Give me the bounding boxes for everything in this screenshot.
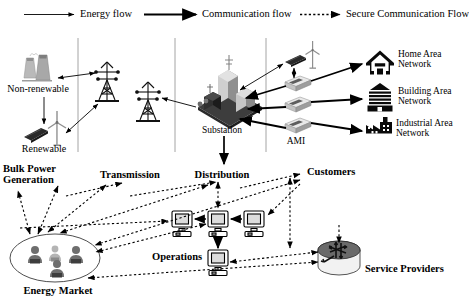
label-operations: Operations bbox=[152, 251, 202, 262]
arrow-substation-der bbox=[240, 64, 283, 90]
arrow-renewable-tower1 bbox=[66, 104, 98, 133]
label-home-area-network-line2: Network bbox=[398, 60, 442, 70]
transmission-tower-1-icon bbox=[95, 62, 120, 101]
label-distribution: Distribution bbox=[195, 169, 250, 180]
house-icon bbox=[366, 51, 394, 75]
non-renewable-icon bbox=[22, 54, 52, 82]
label-substation: Substation bbox=[202, 126, 242, 136]
computer-icon-3 bbox=[244, 211, 264, 237]
legend-label-energy-flow: Energy flow bbox=[80, 8, 132, 19]
arrow-ami3-substation bbox=[240, 119, 286, 128]
arrow-energy-market-bulk-power bbox=[18, 191, 30, 234]
label-industrial-area-network-line2: Network bbox=[396, 129, 453, 139]
arrow-transmission-distribution bbox=[130, 182, 216, 196]
factory-icon bbox=[366, 117, 392, 134]
arrow-computer2-energy-market bbox=[96, 224, 206, 252]
renewable-icon bbox=[24, 111, 66, 146]
ami-meter-2-icon bbox=[285, 97, 311, 112]
label-service-providers: Service Providers bbox=[365, 263, 444, 274]
label-non-renewable: Non-renewable bbox=[7, 84, 69, 95]
label-bulk-power-generation: Bulk Power Generation bbox=[3, 163, 56, 185]
der-solar-wind-icon bbox=[285, 41, 320, 69]
arrow-energy-market-service-providers bbox=[88, 262, 318, 278]
label-transmission: Transmission bbox=[100, 169, 160, 180]
label-building-area-network: Building Area Network bbox=[398, 87, 452, 107]
arrow-ami1-home-area-network bbox=[311, 64, 362, 81]
arrow-ami2-building-area-network bbox=[311, 99, 362, 102]
router-icon bbox=[318, 241, 360, 275]
label-industrial-area-network: Industrial Area Network bbox=[396, 119, 453, 139]
wind-turbine-icon bbox=[48, 111, 66, 146]
arrow-operations-service-providers bbox=[230, 252, 318, 262]
legend-label-secure-communication-flow: Secure Communication Flow bbox=[346, 8, 469, 19]
computer-icon-2 bbox=[208, 211, 228, 237]
operations-computer-icon bbox=[208, 250, 228, 276]
ami-meter-3-icon bbox=[285, 118, 311, 133]
label-renewable: Renewable bbox=[22, 144, 66, 155]
der-wind-turbine-icon bbox=[306, 41, 320, 69]
label-home-area-network: Home Area Network bbox=[398, 50, 442, 70]
label-energy-market: Energy Market bbox=[23, 285, 92, 296]
label-bulk-power-generation-line2: Generation bbox=[3, 174, 56, 185]
transmission-tower-2-icon bbox=[136, 82, 161, 121]
label-ami: AMI bbox=[287, 137, 305, 147]
arrow-nonrenewable-tower1 bbox=[58, 73, 95, 78]
arrow-customers-energy-market bbox=[95, 180, 300, 245]
label-building-area-network-line2: Network bbox=[398, 97, 452, 107]
legend-label-communication-flow: Communication flow bbox=[202, 8, 292, 19]
label-customers: Customers bbox=[307, 166, 355, 177]
arrow-substation-tower2 bbox=[162, 98, 196, 107]
label-bulk-power-generation-line1: Bulk Power bbox=[3, 163, 56, 174]
building-icon bbox=[368, 83, 393, 112]
substation-icon bbox=[198, 55, 262, 129]
arrow-distribution-energy-market bbox=[60, 185, 208, 233]
ami-meter-1-icon bbox=[285, 76, 311, 91]
arrow-ami3-industrial-area-network bbox=[311, 123, 362, 131]
